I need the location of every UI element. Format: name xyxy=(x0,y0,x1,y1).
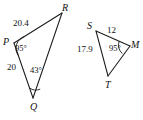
angle-label-q: 43° xyxy=(30,66,42,75)
geometry-figure: P Q R 20.4 20 95° 43° S M T 12 17.9 95° xyxy=(0,0,143,120)
side-label-pq: 20 xyxy=(7,63,16,72)
vertex-label-r: R xyxy=(62,3,68,13)
vertex-label-p: P xyxy=(3,37,9,47)
angle-label-p: 95° xyxy=(15,44,27,53)
segment-rq xyxy=(33,13,62,98)
vertex-label-m: M xyxy=(131,40,139,50)
vertex-label-s: S xyxy=(87,21,92,31)
side-label-st: 17.9 xyxy=(77,45,93,54)
angle-arc-q xyxy=(30,88,41,90)
vertex-label-q: Q xyxy=(30,102,37,112)
angle-label-m: 95° xyxy=(109,44,121,53)
triangle-smt xyxy=(96,31,130,76)
side-label-pr: 20.4 xyxy=(13,19,29,28)
segment-ts xyxy=(96,31,108,76)
vertex-label-t: T xyxy=(105,80,111,90)
side-label-sm: 12 xyxy=(107,26,116,35)
